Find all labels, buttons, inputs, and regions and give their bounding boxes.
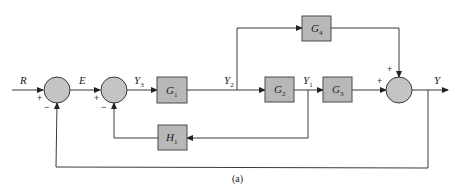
signal-e-label: E bbox=[78, 74, 86, 86]
summing-junction-3 bbox=[386, 77, 412, 103]
sum3-top-plus-sign: + bbox=[387, 64, 392, 74]
block-diagram: R + − E + − Y3 G1 Y2 G4 G2 Y1 G3 + + Y H… bbox=[0, 0, 462, 193]
summing-junction-1 bbox=[44, 77, 70, 103]
sum1-plus-sign: + bbox=[37, 93, 42, 103]
signal-r-label: R bbox=[19, 74, 27, 86]
sum2-minus-sign: − bbox=[101, 102, 106, 112]
signal-y-label: Y bbox=[434, 74, 442, 86]
figure-caption: (a) bbox=[232, 173, 243, 185]
sum1-minus-sign: − bbox=[44, 102, 49, 112]
signal-y3-label: Y3 bbox=[134, 74, 144, 89]
h1-to-sum2-wire bbox=[114, 103, 158, 138]
sum3-left-plus-sign: + bbox=[377, 76, 382, 86]
summing-junction-2 bbox=[101, 77, 127, 103]
sum2-plus-sign: + bbox=[94, 93, 99, 103]
signal-y2-label: Y2 bbox=[224, 74, 234, 89]
signal-y1-label: Y1 bbox=[303, 74, 313, 89]
